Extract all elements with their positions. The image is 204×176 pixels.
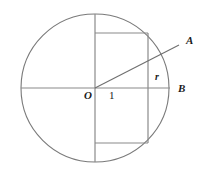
radius-label-r: r [155,71,159,82]
radius-segment-OA [95,45,179,88]
origin-label-O: O [84,89,92,101]
geometry-canvas: A r B O 1 [0,0,204,176]
point-label-A: A [185,34,193,46]
length-label-one: 1 [109,89,115,101]
geometry-figure: A r B O 1 [0,0,204,176]
point-label-B: B [177,82,185,94]
